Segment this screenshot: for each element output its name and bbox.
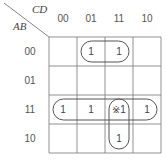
cell-value: 1 — [60, 104, 66, 115]
col-label: 00 — [57, 13, 69, 24]
cell-value: 1 — [88, 104, 94, 115]
col-label: 11 — [114, 13, 125, 24]
cell-value: 1 — [144, 104, 150, 115]
col-label: 01 — [85, 13, 97, 24]
col-label: 10 — [141, 13, 153, 24]
cell-value: 1 — [116, 46, 122, 57]
cell-value: ※1 — [112, 104, 126, 115]
kmap-grid — [49, 37, 161, 153]
col-variable-label: CD — [32, 3, 47, 15]
row-variable-label: AB — [12, 20, 27, 32]
row-label: 11 — [25, 104, 36, 115]
row-label: 00 — [24, 46, 36, 57]
row-label: 10 — [24, 133, 36, 144]
row-label: 01 — [24, 75, 36, 86]
cell-value: 1 — [116, 133, 122, 144]
karnaugh-map: CD AB 0001111000011110 1111※111 — [0, 0, 166, 164]
cell-value: 1 — [88, 46, 94, 57]
